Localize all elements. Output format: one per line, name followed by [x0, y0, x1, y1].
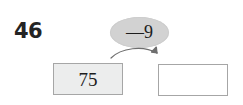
operation-label: —9	[110, 17, 169, 48]
operation-bubble: —9	[110, 17, 169, 48]
worksheet-problem: 46 —9 75	[0, 0, 243, 105]
start-value: 75	[79, 70, 98, 89]
result-value-box[interactable]	[158, 64, 228, 96]
start-value-box[interactable]: 75	[53, 63, 123, 95]
problem-number: 46	[14, 18, 48, 44]
